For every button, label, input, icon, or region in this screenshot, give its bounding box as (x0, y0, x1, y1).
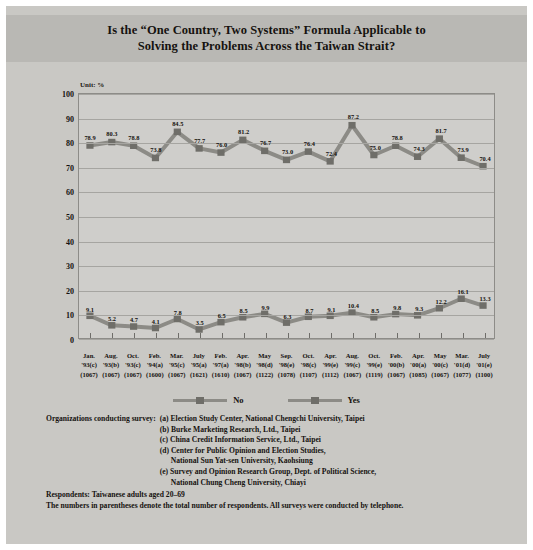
x-axis-tick (331, 333, 332, 338)
x-axis-label-month: Feb. (146, 351, 164, 360)
y-axis-tick-label: 90 (66, 114, 74, 123)
legend-item-no[interactable]: No (173, 395, 243, 405)
x-axis-label-year: '93(c) (124, 360, 142, 369)
data-point-label: 77.7 (194, 137, 205, 144)
data-point-label: 78.8 (128, 134, 139, 141)
organization-entry-continuation: National Chung Cheng University, Chiayi (160, 478, 496, 489)
y-axis-tick-label: 100 (62, 90, 74, 99)
x-axis-tick (200, 333, 201, 338)
data-point-label: 4.1 (152, 318, 160, 325)
data-point-label: 76.4 (304, 140, 315, 147)
data-point-marker (261, 148, 268, 155)
x-axis-label-month: Jan. (80, 351, 98, 360)
x-axis-category-label: Feb.'97(a)(1610) (212, 351, 230, 379)
x-axis-label-month: July (190, 351, 208, 360)
data-point-label: 78.8 (392, 134, 403, 141)
organization-entry: (a) Election Study Center, National Chen… (160, 414, 496, 425)
organization-entry: (d) Center for Public Opinion and Electi… (160, 446, 496, 457)
x-axis-label-n: (1077) (453, 370, 471, 379)
x-axis-label-n: (1621) (190, 370, 208, 379)
x-axis-label-month: May (431, 351, 449, 360)
data-point-label: 78.9 (84, 134, 95, 141)
data-point-marker (174, 316, 181, 323)
x-axis-tick (112, 333, 113, 338)
x-axis-tick (156, 333, 157, 338)
x-axis-category-label: May'00(c)(1067) (431, 351, 449, 379)
data-point-label: 4.7 (130, 316, 138, 323)
x-axis-label-n: (1112) (322, 370, 339, 379)
respondents-block: Respondents: Taiwanese adults aged 20–69… (46, 490, 496, 511)
data-point-marker (152, 325, 159, 332)
gridline (79, 217, 494, 218)
data-point-marker (458, 295, 465, 302)
data-point-label: 8.7 (305, 307, 313, 314)
x-axis-label-n: (1107) (300, 370, 317, 379)
data-point-label: 9.8 (393, 304, 401, 311)
legend-marker (196, 397, 204, 404)
x-axis-label-year: '93(c) (80, 360, 98, 369)
x-axis-category-label: July'95(a)(1621) (190, 351, 208, 379)
data-point-label: 9.9 (262, 304, 270, 311)
data-point-label: 8.5 (240, 307, 248, 314)
x-axis-label-month: Oct. (366, 351, 383, 360)
gridline (79, 291, 494, 292)
x-axis-label-n: (1078) (278, 370, 296, 379)
gridline (79, 119, 494, 120)
organizations-heading: Organizations conducting survey: (46, 414, 160, 488)
x-axis-label-year: '01(e) (475, 360, 492, 369)
x-axis-label-n: (1067) (344, 370, 362, 379)
data-point-marker (283, 319, 290, 326)
legend-item-yes[interactable]: Yes (288, 395, 360, 405)
x-axis-label-n: (1067) (234, 370, 252, 379)
x-axis-tick (463, 333, 464, 338)
organization-entry-continuation: National Sun Yat-sen University, Kaohsiu… (160, 456, 496, 467)
x-axis-tick (266, 333, 267, 338)
x-axis-category-label: Mar.'01(d)(1077) (453, 351, 471, 379)
x-axis-tick (353, 333, 354, 338)
x-axis-label-n: (1100) (475, 370, 492, 379)
gridline (79, 266, 494, 267)
x-axis-category-label: Apr.'98(b)(1067) (234, 351, 252, 379)
x-axis-label-month: Aug. (102, 351, 120, 360)
x-axis-label-month: Oct. (300, 351, 317, 360)
legend-label-yes: Yes (348, 395, 360, 405)
gridline (79, 339, 494, 340)
organization-entry: (c) China Credit Information Service, Lt… (160, 435, 496, 446)
x-axis-label-month: Feb. (387, 351, 405, 360)
x-axis-label-month: Apr. (234, 351, 252, 360)
x-axis-category-label: July'01(e)(1100) (475, 351, 492, 379)
x-axis-label-month: Sep. (278, 351, 296, 360)
data-point-label: 73.8 (150, 146, 161, 153)
data-point-marker (108, 322, 115, 329)
x-axis-label-n: (1610) (212, 370, 230, 379)
data-point-marker (327, 158, 334, 165)
x-axis-category-label: Feb.'94(a)(1600) (146, 351, 164, 379)
data-point-label: 72.4 (326, 150, 337, 157)
x-axis-label-year: '94(a) (146, 360, 164, 369)
gridline (79, 242, 494, 243)
data-point-marker (436, 305, 443, 312)
data-point-label: 7.8 (174, 309, 182, 316)
data-point-marker (436, 135, 443, 142)
page-title-line-1: Is the “One Country, Two Systems” Formul… (107, 23, 426, 39)
y-axis-tick-label: 40 (66, 237, 74, 246)
x-axis-label-year: '95(c) (168, 360, 186, 369)
x-axis-label-year: '99(e) (322, 360, 339, 369)
data-point-marker (174, 129, 181, 136)
x-axis-tick (90, 333, 91, 338)
data-point-label: 76.0 (216, 141, 227, 148)
y-axis-tick-label: 60 (66, 188, 74, 197)
page-title: Is the “One Country, Two Systems” Formul… (107, 23, 426, 54)
x-axis-category-label: Apr.'99(e)(1112) (322, 351, 339, 379)
x-axis-label-year: '98(d) (256, 360, 273, 369)
x-axis-label-year: '97(a) (212, 360, 230, 369)
series-lines (79, 94, 494, 338)
data-point-label: 84.5 (172, 120, 183, 127)
x-axis-label-year: '93(b) (102, 360, 120, 369)
x-axis-category-label: Mar.'95(c)(1067) (168, 351, 186, 379)
x-axis-tick (309, 333, 310, 338)
gridline (79, 94, 494, 95)
x-axis-tick (288, 333, 289, 338)
x-axis-tick (178, 333, 179, 338)
footnotes: Organizations conducting survey: (a) Ele… (46, 414, 496, 511)
